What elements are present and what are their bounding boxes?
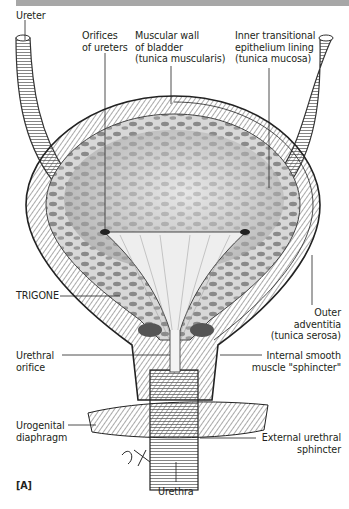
label-inner-lining: Inner transitional epithelium lining (tu… <box>235 30 315 65</box>
label-internal-sphincter: Internal smooth muscle "sphincter" <box>252 350 341 373</box>
label-trigone: TRIGONE <box>16 290 59 302</box>
panel-label: [A] <box>16 480 32 492</box>
urogenital-diaphragm <box>88 402 268 438</box>
label-ureter: Ureter <box>16 10 46 22</box>
label-orifices-of-ureters: Orifices of ureters <box>82 30 128 53</box>
right-ureter-orifice <box>240 229 250 235</box>
label-urethra: Urethra <box>158 486 194 498</box>
label-external-sphincter: External urethral sphincter <box>262 432 341 455</box>
label-urethral-orifice: Urethral orifice <box>16 350 54 373</box>
label-urogenital-diaphragm: Urogenital diaphragm <box>16 420 67 443</box>
label-outer-adventitia: Outer adventitia (tunica serosa) <box>271 307 341 342</box>
label-muscular-wall: Muscular wall of bladder (tunica muscula… <box>135 30 225 65</box>
